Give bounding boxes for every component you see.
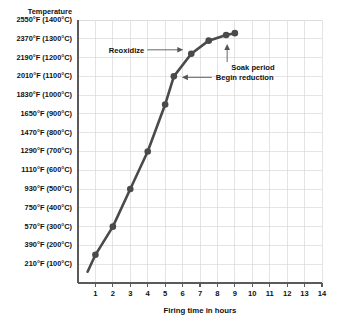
x-tick-label: 6	[180, 289, 184, 298]
y-tick-label: 2190°F (1200°C)	[16, 53, 72, 62]
y-tick-label: 1290°F (700°C)	[20, 146, 72, 155]
y-tick-label: 750°F (400°C)	[25, 203, 73, 212]
data-point-marker	[92, 252, 99, 259]
annotation-label: Soak period	[231, 63, 275, 72]
y-tick-label: 1830°F (1000°C)	[16, 90, 72, 99]
annotation-label: Begin reduction	[216, 73, 274, 82]
x-tick-label: 14	[318, 289, 327, 298]
y-tick-label: 2010°F (1100°C)	[17, 71, 73, 80]
y-tick-label: 1470°F (800°C)	[20, 128, 72, 137]
x-tick-label: 7	[198, 289, 202, 298]
x-tick-label: 11	[266, 289, 275, 298]
y-tick-label: 1110°F (600°C)	[21, 165, 72, 174]
data-point-marker	[144, 148, 151, 155]
y-tick-label: 1650°F (900°C)	[20, 109, 72, 118]
x-tick-label: 13	[300, 289, 308, 298]
x-tick-label: 2	[111, 289, 115, 298]
firing-curve-chart: Temperature 210°F (100°C)390°F (200°C)57…	[0, 0, 339, 318]
data-point-marker	[188, 51, 195, 58]
y-tick-label: 2550°F (1400°C)	[16, 15, 72, 24]
x-tick-label: 9	[233, 289, 237, 298]
y-tick-label: 570°F (300°C)	[25, 222, 73, 231]
y-tick-label: 390°F (200°C)	[25, 240, 73, 249]
data-point-marker	[127, 186, 134, 193]
data-point-marker	[223, 32, 230, 39]
data-point-marker	[232, 30, 239, 37]
data-point-marker	[110, 223, 117, 230]
data-point-marker	[162, 101, 169, 108]
chart-svg: Temperature 210°F (100°C)390°F (200°C)57…	[0, 0, 339, 318]
x-axis-title: Firing time in hours	[164, 306, 237, 315]
data-point-marker	[205, 37, 212, 44]
x-tick-label: 3	[128, 289, 132, 298]
y-tick-label: 210°F (100°C)	[25, 259, 73, 268]
annotation-label: Reoxidize	[109, 46, 144, 55]
data-point-marker	[171, 73, 178, 80]
x-tick-label: 10	[248, 289, 256, 298]
y-tick-label: 930°F (500°C)	[25, 184, 73, 193]
y-tick-label: 2370°F (1300°C)	[16, 34, 72, 43]
x-tick-label: 12	[283, 289, 291, 298]
chart-background	[0, 0, 339, 318]
x-tick-label: 8	[215, 289, 219, 298]
